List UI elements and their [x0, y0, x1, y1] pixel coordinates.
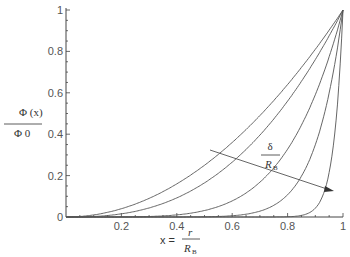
data-curve [66, 10, 343, 217]
y-tick-label: 0 [57, 211, 63, 223]
data-curve [66, 10, 343, 217]
y-tick-label: 0.8 [48, 45, 63, 57]
annotation-label: δ R B [261, 140, 280, 172]
data-curve [66, 10, 343, 217]
y-tick-label: 0.6 [48, 87, 63, 99]
x-tick-label: 0.8 [280, 220, 295, 232]
curves [66, 10, 343, 217]
svg-text:δ: δ [267, 140, 272, 152]
svg-text:Φ (x): Φ (x) [19, 106, 43, 119]
x-tick-label: 0.2 [114, 220, 129, 232]
y-axis-label: Φ (x) Φ 0 [4, 106, 43, 139]
svg-text:Φ 0: Φ 0 [14, 127, 31, 139]
x-tick-label: 0.6 [225, 220, 240, 232]
x-tick-label: 1 [340, 220, 346, 232]
data-curve [66, 10, 343, 217]
svg-text:B: B [192, 248, 197, 256]
y-tick-label: 1 [57, 4, 63, 16]
annotation-arrow [210, 150, 334, 192]
y-tick-label: 0.2 [48, 170, 63, 182]
data-curve [66, 10, 343, 217]
svg-text:R: R [183, 242, 191, 254]
chart: 0.20.40.60.8100.20.40.60.81 δ R B Φ (x) … [0, 0, 350, 257]
axes: 0.20.40.60.8100.20.40.60.81 [48, 4, 346, 232]
svg-text:x =: x = [160, 234, 175, 246]
y-tick-label: 0.4 [48, 128, 63, 140]
x-tick-label: 0.4 [169, 220, 184, 232]
svg-text:r: r [188, 226, 193, 238]
svg-text:R: R [264, 158, 272, 170]
svg-text:B: B [273, 164, 278, 172]
